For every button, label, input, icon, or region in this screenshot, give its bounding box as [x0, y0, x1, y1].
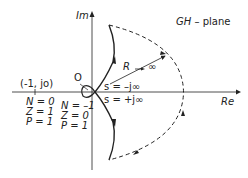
origin-loop: [82, 86, 95, 98]
right-region-counts: N = –1 Z = 0 P = 1: [61, 101, 95, 131]
arc-arrow-icon-bottom: [133, 150, 139, 155]
critical-point-label: (-1, jo): [20, 79, 53, 89]
s-neg-j-infinity-label: s = –j∞: [104, 82, 140, 92]
left-p-value: P = 1: [26, 117, 55, 127]
s-pos-j-infinity-label: s = +j∞: [104, 95, 143, 105]
origin-label: O: [74, 73, 82, 83]
radius-label: R∞: [123, 62, 156, 72]
right-p-value: P = 1: [61, 121, 95, 131]
dashed-infinite-arc: [109, 25, 184, 160]
real-axis-label: Re: [221, 97, 234, 107]
arc-arrow-icon-top: [160, 51, 166, 55]
imaginary-axis-arrow-icon: [90, 11, 95, 17]
imaginary-axis-label: Im: [76, 11, 89, 21]
real-axis-arrow-icon: [236, 90, 241, 95]
left-region-counts: N = 0 Z = 1 P = 1: [26, 97, 55, 127]
origin-leader-line: [80, 84, 88, 90]
nyquist-diagram: Im GH – plane Re (-1, jo) O R∞ s = –j∞ s…: [0, 0, 248, 178]
arc-arrow-icon-right: [181, 110, 185, 116]
plane-label: GH – plane: [176, 17, 230, 27]
